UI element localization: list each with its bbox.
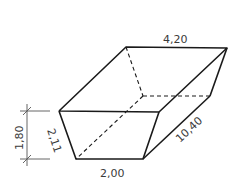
hidden-edges <box>76 47 210 159</box>
hidden-edge-bottom-length <box>76 96 143 159</box>
label-slant-side: 2,11 <box>44 127 64 154</box>
front-face <box>59 111 159 159</box>
hidden-edge-vertical <box>126 47 143 96</box>
prism-diagram: 4,20 2,00 10,40 2,11 1,80 <box>0 0 241 189</box>
label-bottom-width: 2,00 <box>100 167 125 180</box>
visible-edges <box>59 47 227 159</box>
label-height: 1,80 <box>13 126 26 151</box>
label-length: 10,40 <box>173 114 205 145</box>
top-rim <box>59 47 227 112</box>
label-top-width: 4,20 <box>163 33 188 46</box>
